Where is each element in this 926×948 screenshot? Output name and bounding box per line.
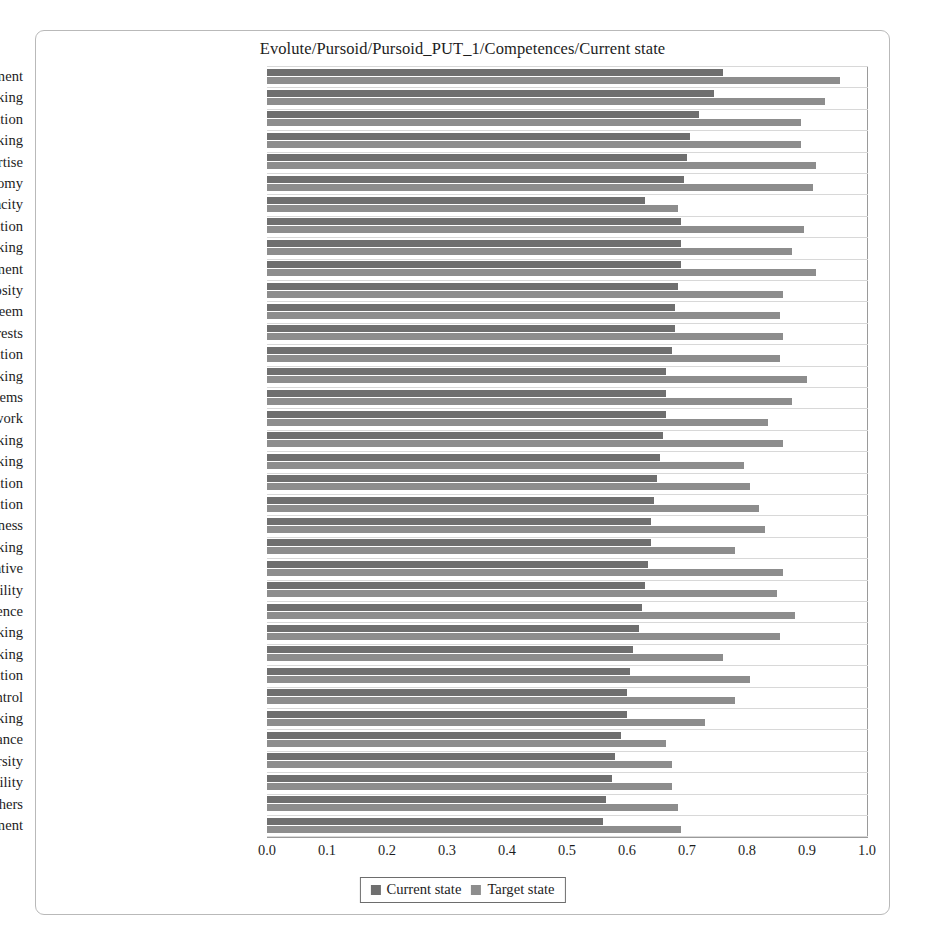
bar-target[interactable] <box>267 547 735 554</box>
bar-target[interactable] <box>267 804 678 811</box>
bar-target[interactable] <box>267 462 744 469</box>
bar-target[interactable] <box>267 612 795 619</box>
x-tick-label: 0.7 <box>657 842 717 859</box>
bar-current[interactable] <box>267 689 627 696</box>
bar-target[interactable] <box>267 569 783 576</box>
bar-current[interactable] <box>267 604 642 611</box>
bar-target[interactable] <box>267 376 807 383</box>
category-label: Achievement orientation <box>0 109 23 130</box>
bar-target[interactable] <box>267 590 777 597</box>
bar-target[interactable] <box>267 205 678 212</box>
bar-target[interactable] <box>267 248 792 255</box>
bar-current[interactable] <box>267 539 651 546</box>
bar-target[interactable] <box>267 697 735 704</box>
bar-current[interactable] <box>267 283 678 290</box>
bar-target[interactable] <box>267 419 768 426</box>
bar-target[interactable] <box>267 291 783 298</box>
bar-target[interactable] <box>267 826 681 833</box>
bar-target[interactable] <box>267 162 816 169</box>
bar-current[interactable] <box>267 561 648 568</box>
bar-target[interactable] <box>267 483 750 490</box>
category-label: Initiative <box>0 558 23 579</box>
category-label: Curiosity <box>0 280 23 301</box>
bar-current[interactable] <box>267 218 681 225</box>
category-label: Critical thinking <box>0 366 23 387</box>
bar-target[interactable] <box>267 761 672 768</box>
bar-current[interactable] <box>267 732 621 739</box>
legend-item[interactable]: Target state <box>471 881 554 898</box>
bar-current[interactable] <box>267 69 723 76</box>
bar-row <box>267 109 868 130</box>
bar-target[interactable] <box>267 654 723 661</box>
bar-current[interactable] <box>267 240 681 247</box>
bar-current[interactable] <box>267 347 672 354</box>
bar-target[interactable] <box>267 119 801 126</box>
bar-current[interactable] <box>267 668 630 675</box>
x-tick-label: 0.1 <box>297 842 357 859</box>
bar-current[interactable] <box>267 475 657 482</box>
bar-row <box>267 237 868 258</box>
category-label: Self-control <box>0 687 23 708</box>
bar-target[interactable] <box>267 355 780 362</box>
bar-current[interactable] <box>267 582 645 589</box>
bar-current[interactable] <box>267 261 681 268</box>
bar-target[interactable] <box>267 676 750 683</box>
bar-target[interactable] <box>267 526 765 533</box>
category-label: Convergent thinking <box>0 708 23 729</box>
bar-current[interactable] <box>267 497 654 504</box>
bar-current[interactable] <box>267 753 615 760</box>
bar-current[interactable] <box>267 325 675 332</box>
bar-current[interactable] <box>267 304 675 311</box>
category-label: Lateral thinking <box>0 430 23 451</box>
category-label: Divergent thinking <box>0 644 23 665</box>
bar-current[interactable] <box>267 711 627 718</box>
bar-target[interactable] <box>267 505 759 512</box>
bar-row <box>267 152 868 173</box>
bar-current[interactable] <box>267 197 645 204</box>
category-label: Formulating problems <box>0 387 23 408</box>
bar-current[interactable] <box>267 133 690 140</box>
category-label: Communication <box>0 216 23 237</box>
bar-current[interactable] <box>267 176 684 183</box>
bar-target[interactable] <box>267 633 780 640</box>
bar-target[interactable] <box>267 398 792 405</box>
bar-target[interactable] <box>267 77 840 84</box>
bar-target[interactable] <box>267 440 783 447</box>
bar-current[interactable] <box>267 432 663 439</box>
bar-target[interactable] <box>267 783 672 790</box>
category-label: Intuitive thinking <box>0 451 23 472</box>
bar-target[interactable] <box>267 740 666 747</box>
bar-current[interactable] <box>267 796 606 803</box>
bar-current[interactable] <box>267 818 603 825</box>
bar-target[interactable] <box>267 269 816 276</box>
legend-label: Current state <box>386 881 461 898</box>
x-tick-label: 0.6 <box>597 842 657 859</box>
bar-current[interactable] <box>267 411 666 418</box>
x-tick-label: 1.0 <box>837 842 897 859</box>
bar-current[interactable] <box>267 90 714 97</box>
bar-current[interactable] <box>267 368 666 375</box>
bar-current[interactable] <box>267 111 699 118</box>
bar-current[interactable] <box>267 775 612 782</box>
bar-current[interactable] <box>267 625 639 632</box>
bar-target[interactable] <box>267 98 825 105</box>
bar-row <box>267 301 868 322</box>
legend-swatch-icon <box>471 885 481 895</box>
bar-current[interactable] <box>267 154 687 161</box>
bar-current[interactable] <box>267 518 651 525</box>
bar-row <box>267 280 868 301</box>
bar-current[interactable] <box>267 454 660 461</box>
legend-item[interactable]: Current state <box>370 881 461 898</box>
bar-target[interactable] <box>267 226 804 233</box>
bar-target[interactable] <box>267 184 813 191</box>
bar-target[interactable] <box>267 333 783 340</box>
bar-current[interactable] <box>267 646 633 653</box>
bar-target[interactable] <box>267 719 705 726</box>
category-label: Analytical thinking <box>0 622 23 643</box>
bar-target[interactable] <box>267 141 801 148</box>
bar-row <box>267 729 868 750</box>
bar-target[interactable] <box>267 312 780 319</box>
category-label: Self-development <box>0 66 23 87</box>
bar-row <box>267 558 868 579</box>
bar-current[interactable] <box>267 390 666 397</box>
